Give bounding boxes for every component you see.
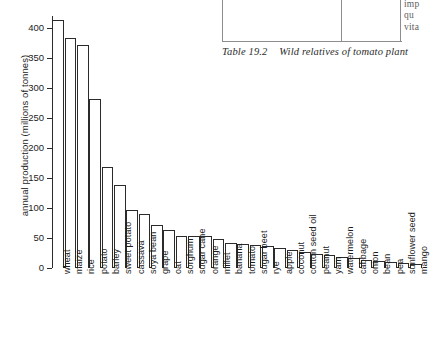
x-axis-tick-label: banana <box>234 243 244 274</box>
x-axis-tick-label: sunflower seed <box>407 212 417 274</box>
x-axis-tick-label: cabbage <box>358 239 368 274</box>
y-axis-tick-mark <box>47 208 52 209</box>
x-axis-tick-label: barley <box>111 249 121 274</box>
bar <box>52 20 64 268</box>
x-axis-tick-label: sorghum <box>185 238 195 274</box>
bar <box>77 45 89 268</box>
y-axis-tick-label: 300 <box>14 82 44 93</box>
bar <box>65 38 77 268</box>
x-axis-tick-label: soya bean <box>148 232 158 274</box>
x-axis-tick-label: mango <box>419 246 429 274</box>
x-axis-tick-label: watermelon <box>345 226 355 274</box>
y-axis-tick-label: 350 <box>14 52 44 63</box>
bar <box>89 99 101 268</box>
y-axis-tick-label: 0 <box>14 262 44 273</box>
y-axis-tick-mark <box>47 58 52 59</box>
y-axis-tick-label: 50 <box>14 232 44 243</box>
x-axis-tick-label: tomato <box>247 246 257 274</box>
plot-area: 050100150200250300350400 <box>52 16 422 268</box>
y-axis-tick-mark <box>47 118 52 119</box>
y-axis-tick-mark <box>47 28 52 29</box>
x-axis-tick-label: maize <box>74 249 84 274</box>
y-axis-tick-mark <box>47 148 52 149</box>
x-axis-tick-label: sugar cane <box>197 228 207 274</box>
x-axis-tick-label: yam <box>333 257 343 274</box>
y-axis-tick-label: 100 <box>14 202 44 213</box>
x-axis-tick-label: coconut <box>296 242 306 274</box>
x-axis-tick-label: millet <box>222 252 232 274</box>
x-axis-tick-label: potato <box>99 248 109 274</box>
y-axis-tick-mark <box>47 268 52 269</box>
x-axis-tick-label: grape <box>160 250 170 274</box>
x-axis-tick-label: apple <box>284 251 294 274</box>
x-axis-tick-label: orange <box>210 245 220 274</box>
x-axis-tick-label: rice <box>86 259 96 274</box>
x-axis-tick-label: rye <box>271 261 281 274</box>
y-axis-tick-label: 400 <box>14 22 44 33</box>
x-axis-tick-label: oat <box>173 261 183 274</box>
x-axis-tick-label: sweet potato <box>123 222 133 274</box>
y-axis-tick-label: 150 <box>14 172 44 183</box>
y-axis-label: annual production (millions of tonnes) <box>19 6 30 266</box>
x-axis-tick-label: sugar beet <box>259 230 269 274</box>
y-axis-tick-label: 200 <box>14 142 44 153</box>
x-axis-tick-label: peanut <box>321 246 331 274</box>
y-axis-tick-mark <box>47 238 52 239</box>
x-axis-tick-label: onion <box>370 251 380 274</box>
x-axis-tick-label: cassava <box>136 240 146 274</box>
x-axis-labels: wheatmaizericepotatobarleysweet potatoca… <box>52 274 422 351</box>
x-axis-tick-label: cotton seed oil <box>308 214 318 274</box>
y-axis-tick-label: 250 <box>14 112 44 123</box>
y-axis-tick-mark <box>47 88 52 89</box>
x-axis-tick-label: pea <box>395 259 405 274</box>
y-axis-tick-mark <box>47 178 52 179</box>
x-axis-tick-label: wheat <box>62 249 72 274</box>
x-axis-tick-label: bean <box>382 254 392 274</box>
